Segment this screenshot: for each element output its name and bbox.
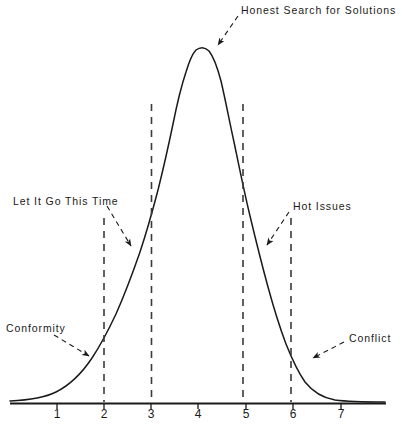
x-tick-label-3: 3 xyxy=(148,408,155,420)
x-tick-label-4: 4 xyxy=(195,408,202,420)
annotation-hot-issues: Hot Issues xyxy=(293,201,352,212)
leader-honest-search xyxy=(218,16,238,45)
x-tick-label-2: 2 xyxy=(101,408,108,420)
x-tick-label-6: 6 xyxy=(290,408,297,420)
conflict-distribution-chart xyxy=(0,0,402,428)
bell-curve-figure: Honest Search for Solutions Let It Go Th… xyxy=(0,0,402,428)
leader-let-it-go xyxy=(107,206,131,246)
annotation-let-it-go: Let It Go This Time xyxy=(13,196,119,207)
distribution-curve xyxy=(10,48,385,402)
annotation-conformity: Conformity xyxy=(6,323,66,334)
leader-hot-issues xyxy=(267,212,289,245)
x-tick-label-1: 1 xyxy=(54,408,61,420)
annotation-conflict: Conflict xyxy=(349,333,391,344)
x-tick-label-7: 7 xyxy=(338,408,345,420)
leader-conformity xyxy=(54,335,89,356)
x-tick-label-5: 5 xyxy=(243,408,250,420)
leader-conflict xyxy=(313,342,344,358)
annotation-honest-search: Honest Search for Solutions xyxy=(241,5,396,16)
